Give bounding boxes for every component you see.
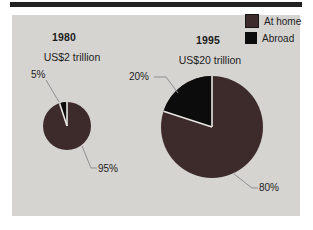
leader-line-5pct xyxy=(46,80,59,102)
legend: At home Abroad xyxy=(245,15,305,49)
chart-title-1995: 1995 xyxy=(178,34,238,46)
chart-subtitle-1980: US$2 trillion xyxy=(22,51,122,63)
pie-1980 xyxy=(43,102,91,150)
label-abroad-pct-1980: 5% xyxy=(31,69,45,80)
label-athome-pct-1995: 80% xyxy=(259,182,279,193)
chart-title-1980: 1980 xyxy=(34,31,94,43)
legend-item-at-home: At home xyxy=(245,15,305,27)
leader-line-20pct xyxy=(154,77,178,93)
label-athome-pct-1980: 95% xyxy=(98,163,118,174)
legend-label-abroad: Abroad xyxy=(262,33,294,44)
leader-line-95pct xyxy=(82,146,97,168)
legend-item-abroad: Abroad xyxy=(245,32,305,44)
chart-subtitle-1995: US$20 trillion xyxy=(160,54,260,66)
leader-line-80pct xyxy=(234,174,258,188)
at-home-swatch-icon xyxy=(245,14,259,28)
abroad-swatch-icon xyxy=(245,32,257,44)
legend-label-at-home: At home xyxy=(264,16,301,27)
label-abroad-pct-1995: 20% xyxy=(129,71,149,82)
